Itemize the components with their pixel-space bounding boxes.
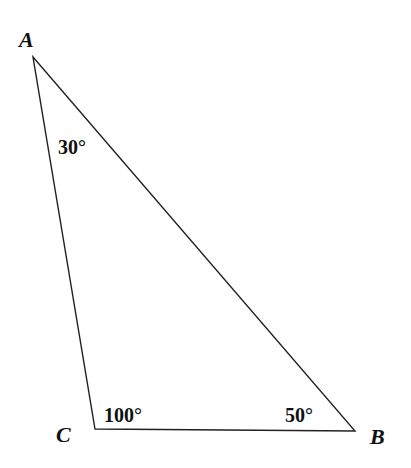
angle-label-b: 50° <box>285 404 313 426</box>
vertex-label-b: B <box>369 424 385 449</box>
angle-label-a: 30° <box>58 136 86 158</box>
triangle-diagram: A B C 30° 100° 50° <box>0 0 411 468</box>
vertex-label-a: A <box>17 27 34 52</box>
angle-label-c: 100° <box>104 404 142 426</box>
vertex-label-c: C <box>56 422 71 447</box>
triangle-abc <box>33 57 355 431</box>
